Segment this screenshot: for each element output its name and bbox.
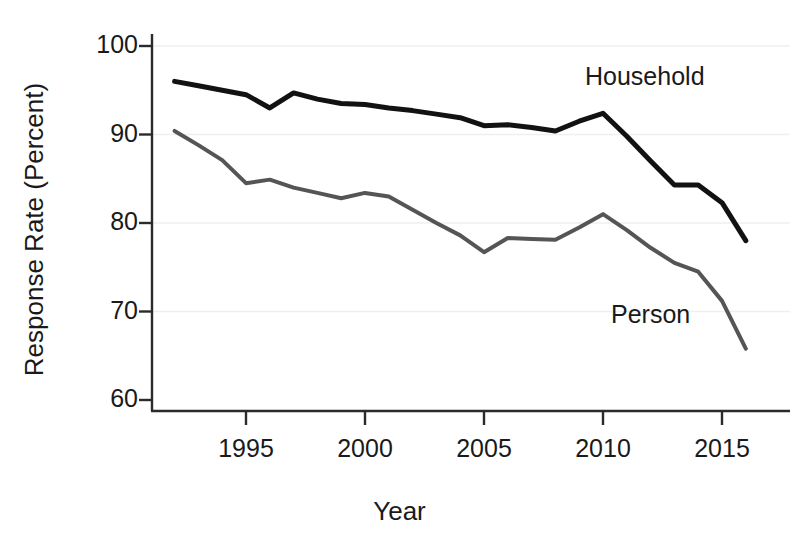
y-tick-label: 80: [40, 207, 138, 236]
x-tick-label: 2010: [553, 434, 653, 463]
x-axis-title: Year: [0, 496, 799, 527]
x-tick-label: 2000: [315, 434, 415, 463]
y-axis-title: Response Rate (Percent): [19, 50, 50, 410]
y-tick-label: 90: [40, 119, 138, 148]
y-tick-label: 100: [40, 30, 138, 59]
x-tick-label: 2005: [434, 434, 534, 463]
series-line-household: [175, 81, 746, 240]
chart-container: 60708090100 19952000200520102015 Respons…: [0, 0, 799, 555]
y-tick-label: 60: [40, 384, 138, 413]
series-label-household: Household: [585, 62, 705, 91]
x-tick-label: 1995: [196, 434, 296, 463]
series-label-person: Person: [611, 300, 690, 329]
y-tick-label: 70: [40, 296, 138, 325]
x-tick-label: 2015: [672, 434, 772, 463]
